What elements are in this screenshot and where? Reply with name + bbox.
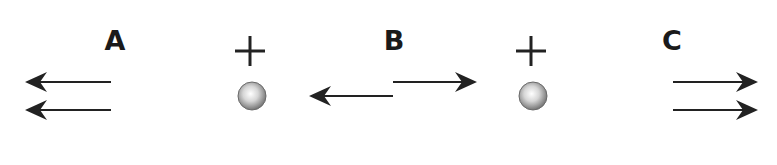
region-label-c: C [662,27,682,54]
positive-charge-1 [235,36,266,110]
plus-sign-icon [516,36,546,66]
electric-field-diagram: A B C [0,0,777,165]
region-label-b: B [384,27,405,54]
field-arrow-right-icon [673,100,758,120]
positive-charge-2 [516,36,547,110]
field-arrow-right-icon [673,72,758,92]
plus-sign-icon [235,36,265,66]
field-arrow-right-icon [393,72,477,92]
field-arrow-left-icon [309,86,393,106]
charge-sphere-icon [238,82,266,110]
field-arrows [25,72,758,120]
field-arrow-left-icon [25,72,111,92]
region-label-a: A [105,27,126,54]
charge-sphere-icon [519,82,547,110]
field-arrow-left-icon [25,100,111,120]
